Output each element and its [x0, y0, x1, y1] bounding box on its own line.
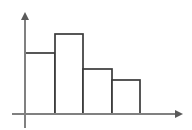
histogram-bar[interactable]	[25, 53, 55, 114]
x-axis-arrow-icon	[175, 110, 183, 118]
y-axis-arrow-icon	[21, 12, 29, 20]
bars-group	[25, 34, 140, 114]
histogram-figure	[0, 0, 192, 130]
histogram-bar[interactable]	[112, 80, 140, 114]
histogram-bar[interactable]	[83, 69, 112, 114]
histogram-plot-area	[0, 0, 192, 130]
histogram-bar[interactable]	[55, 34, 83, 114]
